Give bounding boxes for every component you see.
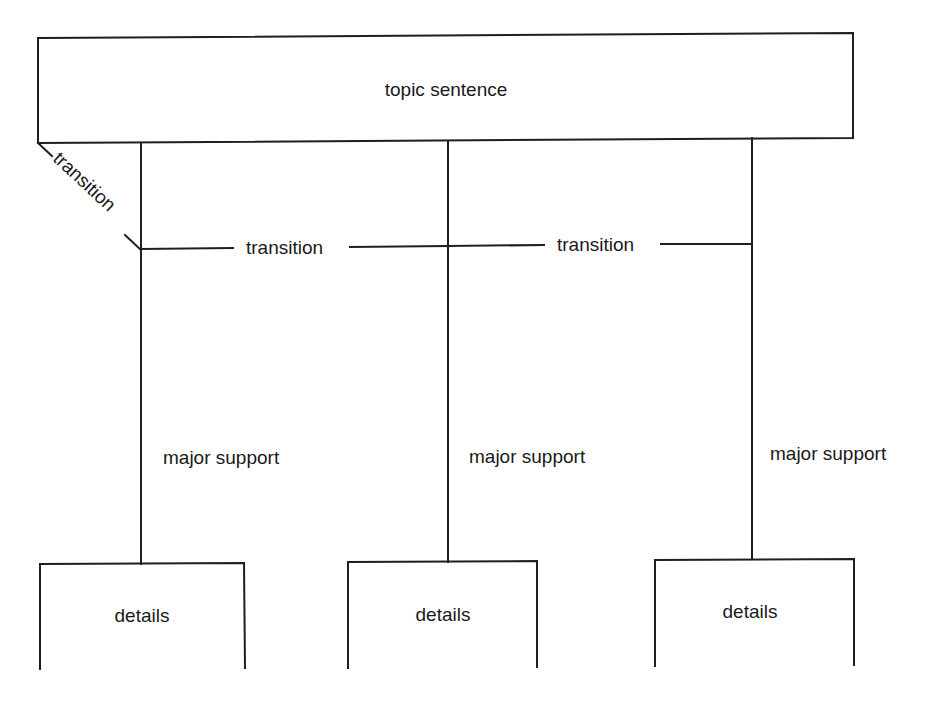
topic-sentence-box: topic sentence <box>38 33 853 143</box>
details-label-3: details <box>723 601 778 622</box>
major-support-label-2: major support <box>469 446 586 467</box>
details-box-1: details <box>40 563 245 669</box>
topic-sentence-label: topic sentence <box>385 79 508 100</box>
paragraph-structure-diagram: topic sentence transition transition tra… <box>0 0 934 703</box>
transition-label-1: transition <box>246 237 323 258</box>
diagonal-transition: transition <box>38 143 140 249</box>
transition-label-2: transition <box>557 234 634 255</box>
details-box-2: details <box>348 561 537 668</box>
details-label-1: details <box>115 605 170 626</box>
horizontal-transition-2: transition <box>448 234 752 255</box>
details-label-2: details <box>416 604 471 625</box>
details-box-3: details <box>655 559 854 666</box>
major-support-label-3: major support <box>770 443 887 464</box>
horizontal-transition-1: transition <box>141 237 448 258</box>
major-support-label-1: major support <box>163 447 280 468</box>
diagonal-transition-label: transition <box>49 148 120 216</box>
